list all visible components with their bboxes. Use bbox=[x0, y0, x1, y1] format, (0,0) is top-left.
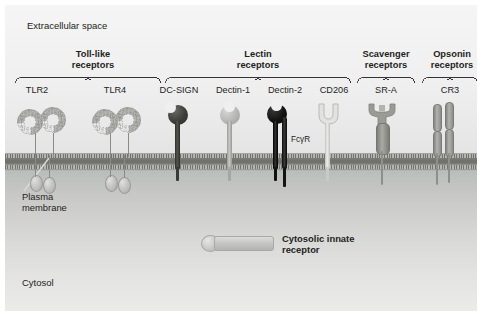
group-title-toll-like: Toll-like receptors bbox=[45, 49, 141, 71]
cd206-stalk bbox=[325, 123, 330, 169]
group-title-toll-like-line1: Toll-like bbox=[45, 49, 141, 60]
tlr2-linker-a bbox=[35, 155, 36, 177]
dc-sign-cytoplasmic-tail bbox=[176, 167, 179, 181]
callout-line1: Cytosolic innate bbox=[282, 233, 354, 244]
dectin-2-head-notch bbox=[271, 100, 282, 111]
tlr4-stalk-a bbox=[110, 133, 111, 157]
dectin-2-stalk bbox=[273, 121, 278, 169]
group-title-opsonin-line1: Opsonin bbox=[420, 49, 477, 60]
cr3-beta-chain-lower bbox=[445, 129, 454, 157]
tlr2-stalk-a bbox=[35, 133, 36, 157]
group-title-opsonin-line2: receptors bbox=[420, 60, 477, 71]
group-bracket-scavenger bbox=[357, 74, 415, 82]
plasma-membrane-bilayer bbox=[5, 153, 477, 169]
cr3-alpha-cytoplasmic-tail bbox=[436, 153, 438, 185]
dc-sign-stalk bbox=[175, 121, 180, 169]
tlr4-stalk-b bbox=[128, 133, 129, 157]
receptor-label-dectin-1: Dectin-1 bbox=[207, 85, 259, 95]
group-title-scavenger-line1: Scavenger bbox=[350, 49, 422, 60]
receptor-label-cr3: CR3 bbox=[427, 85, 473, 95]
receptor-label-sr-a: SR-A bbox=[362, 85, 410, 95]
plasma-membrane-label-line2: membrane bbox=[22, 202, 67, 213]
dectin-1-cytoplasmic-tail bbox=[228, 167, 231, 181]
membrane-inner-leaflet bbox=[5, 165, 477, 169]
group-title-lectin-line1: Lectin bbox=[210, 49, 306, 60]
group-title-scavenger: Scavenger receptors bbox=[350, 49, 422, 71]
group-bracket-opsonin bbox=[422, 74, 477, 82]
tlr2-tir-domain-a bbox=[30, 175, 43, 192]
tlr4-linker-a bbox=[110, 155, 111, 177]
callout-line2: receptor bbox=[282, 244, 354, 255]
membrane-hydrophobic-core bbox=[5, 158, 477, 164]
extracellular-space-label: Extracellular space bbox=[27, 20, 107, 31]
cr3-beta-cytoplasmic-tail bbox=[448, 153, 450, 183]
group-title-scavenger-line2: receptors bbox=[350, 60, 422, 71]
dectin-1-stalk bbox=[227, 121, 232, 169]
group-title-toll-like-line2: receptors bbox=[45, 60, 141, 71]
group-title-opsonin: Opsonin receptors bbox=[420, 49, 477, 71]
receptor-label-cd206: CD206 bbox=[310, 85, 358, 95]
tlr2-tir-domain-b bbox=[43, 177, 56, 194]
group-title-lectin-line2: receptors bbox=[210, 60, 306, 71]
group-bracket-lectin bbox=[165, 74, 351, 82]
tlr4-tir-domain-a bbox=[105, 175, 118, 192]
cd206-cytoplasmic-tail bbox=[326, 167, 329, 181]
cr3-alpha-chain-upper bbox=[433, 104, 442, 132]
dectin-1-head-notch bbox=[224, 101, 235, 112]
tlr4-linker-b bbox=[124, 155, 125, 178]
figure-canvas: Extracellular space Plasma membrane Cyto… bbox=[5, 5, 477, 311]
group-bracket-toll-like bbox=[15, 74, 161, 82]
receptor-label-dectin-2: Dectin-2 bbox=[259, 85, 311, 95]
sr-a-cytoplasmic-tail bbox=[381, 151, 383, 185]
tlr4-tir-domain-b bbox=[118, 177, 131, 194]
annotation-label-fc-gamma-r: FcγR bbox=[291, 135, 310, 144]
cr3-alpha-chain-lower bbox=[433, 131, 442, 157]
cytosolic-receptor-effector-domain bbox=[214, 236, 274, 251]
membrane-outer-leaflet bbox=[5, 154, 477, 158]
dectin-2-cytoplasmic-tail bbox=[274, 167, 277, 181]
sr-a-alpha-helical-stalk bbox=[376, 123, 390, 155]
fc-gamma-r-chain bbox=[282, 117, 287, 169]
receptor-label-tlr2: TLR2 bbox=[12, 85, 62, 95]
tlr2-linker-b bbox=[49, 155, 50, 178]
tlr2-stalk-b bbox=[53, 133, 54, 157]
receptor-label-tlr4: TLR4 bbox=[90, 85, 140, 95]
fc-gamma-r-cytoplasmic-tail bbox=[283, 167, 286, 187]
cytosol-label: Cytosol bbox=[22, 277, 54, 288]
group-title-lectin: Lectin receptors bbox=[210, 49, 306, 71]
callout-cytosolic-innate-receptor: Cytosolic innate receptor bbox=[282, 233, 354, 255]
receptor-label-dc-sign: DC-SIGN bbox=[151, 85, 207, 95]
dc-sign-head-notch bbox=[165, 102, 176, 113]
cr3-beta-chain-upper bbox=[445, 102, 454, 130]
